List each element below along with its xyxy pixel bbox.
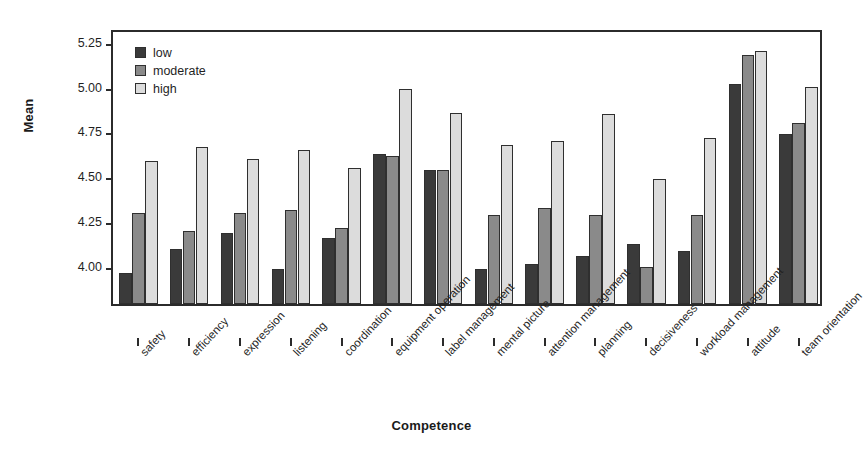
y-tick-mark [106, 89, 113, 91]
bar-moderate [183, 231, 196, 304]
bar-low [779, 134, 792, 304]
x-tick-label: decisiveness [646, 302, 700, 358]
legend-swatch-low [135, 47, 146, 58]
legend-item-moderate: moderate [135, 62, 206, 79]
x-tick-mark [696, 338, 698, 346]
legend-label: low [153, 45, 172, 61]
bar-high [298, 150, 311, 304]
y-tick-mark [106, 133, 113, 135]
x-tick-mark [594, 338, 596, 346]
legend-item-low: low [135, 44, 206, 61]
bar-chart: Mean 4.004.254.504.755.005.25 safetyeffi… [0, 0, 863, 458]
bar-moderate [234, 213, 247, 304]
bar-low [322, 238, 335, 304]
x-tick-mark [747, 338, 749, 346]
x-tick-mark [544, 338, 546, 346]
bar-low [373, 154, 386, 304]
bar-high [247, 159, 260, 304]
legend-swatch-high [135, 83, 146, 94]
x-tick-mark [798, 338, 800, 346]
bar-low [576, 256, 589, 304]
legend-swatch-moderate [135, 65, 146, 76]
bar-high [348, 168, 361, 304]
legend: lowmoderatehigh [135, 44, 206, 98]
bar-low [221, 233, 234, 304]
x-tick-mark [493, 338, 495, 346]
x-tick-mark [645, 338, 647, 346]
bar-low [272, 269, 285, 304]
bar-low [170, 249, 183, 304]
bar-moderate [640, 267, 653, 304]
x-tick-mark [290, 338, 292, 346]
y-tick-mark [106, 223, 113, 225]
x-tick-mark [137, 338, 139, 346]
bar-high [755, 51, 768, 304]
y-tick-mark [106, 178, 113, 180]
x-axis-title: Competence [0, 418, 863, 433]
bar-high [805, 87, 818, 304]
x-tick-mark [239, 338, 241, 346]
legend-item-high: high [135, 80, 206, 97]
x-tick-mark [188, 338, 190, 346]
x-tick-label: planning [595, 318, 633, 358]
bar-moderate [437, 170, 450, 304]
bar-high [196, 147, 209, 304]
bar-moderate [792, 123, 805, 304]
y-tick-label: 4.25 [78, 215, 102, 229]
bar-low [678, 251, 691, 304]
bar-moderate [132, 213, 145, 304]
bar-high [399, 89, 412, 304]
legend-label: high [153, 81, 177, 97]
x-tick-label: expression [240, 309, 287, 358]
x-tick-mark [442, 338, 444, 346]
bar-moderate [335, 228, 348, 304]
bar-high [704, 138, 717, 304]
y-tick-label: 4.00 [78, 260, 102, 274]
y-tick-label: 5.25 [78, 36, 102, 50]
y-tick-mark [106, 268, 113, 270]
bar-low [729, 84, 742, 304]
x-tick-mark [341, 338, 343, 346]
bar-low [475, 269, 488, 304]
bar-moderate [691, 215, 704, 304]
y-tick-label: 4.75 [78, 125, 102, 139]
bar-moderate [538, 208, 551, 304]
x-tick-label: mental picture [494, 297, 552, 358]
plot-area: 4.004.254.504.755.005.25 safetyefficienc… [111, 30, 822, 306]
bar-high [653, 179, 666, 304]
x-tick-label: attitude [748, 322, 783, 358]
bar-low [424, 170, 437, 304]
x-tick-label: coordination [342, 304, 394, 358]
plot-inner [113, 32, 820, 304]
bar-high [551, 141, 564, 304]
x-tick-label: efficiency [189, 315, 230, 358]
bar-low [525, 264, 538, 304]
y-tick-mark [106, 44, 113, 46]
bar-moderate [742, 55, 755, 304]
y-axis-title: Mean [21, 56, 36, 176]
bar-low [119, 273, 132, 304]
x-tick-label: safety [138, 328, 168, 359]
y-tick-label: 4.50 [78, 170, 102, 184]
legend-label: moderate [153, 63, 206, 79]
x-tick-label: listening [291, 319, 329, 358]
y-tick-label: 5.00 [78, 81, 102, 95]
x-tick-mark [391, 338, 393, 346]
bar-high [145, 161, 158, 304]
bar-moderate [386, 156, 399, 304]
bar-moderate [285, 210, 298, 304]
